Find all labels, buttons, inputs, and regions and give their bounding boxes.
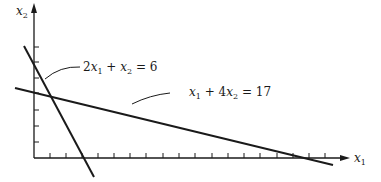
eq2-var1: x [189,85,196,99]
eq1-coef1: 2 [83,60,91,74]
eq1-sub2: 2 [127,67,132,76]
eq1-var2: x [120,60,127,74]
eq1-rhs: 6 [150,60,158,74]
eq1-sub1: 1 [97,67,102,76]
eq2-sub2: 2 [233,92,238,101]
equation-label-1: 2x1 + x2 = 6 [83,61,157,76]
equation-label-2: x1 + 4x2 = 17 [189,86,271,101]
eq2-var2: x [226,85,233,99]
constraint-line-2 [15,88,333,165]
leader-line-1 [45,67,80,79]
eq1-op: + [106,60,116,74]
y-axis-var: x [16,4,23,18]
y-axis-sub: 2 [23,11,28,20]
x-axis-var: x [354,151,361,165]
eq1-eq: = [136,60,146,74]
y-axis-label: x2 [16,5,28,20]
eq2-rhs: 17 [256,85,271,99]
x-axis-arrow-icon [340,155,350,161]
x-axis-label: x1 [354,152,366,167]
eq2-eq: = [242,85,252,99]
x-axis-sub: 1 [361,158,366,167]
y-axis-arrow-icon [31,3,37,13]
eq2-sub1: 1 [196,92,201,101]
leader-line-2 [132,93,170,104]
eq2-op: + [205,85,215,99]
